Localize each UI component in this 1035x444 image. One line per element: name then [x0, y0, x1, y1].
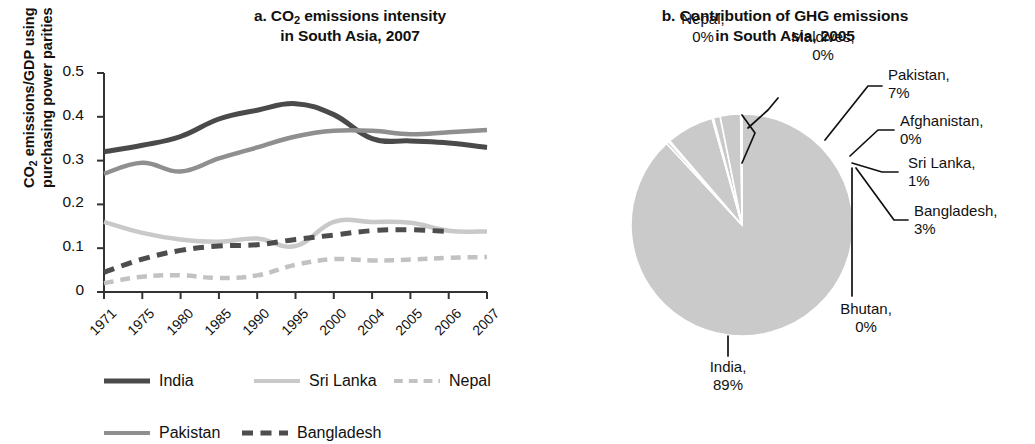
- legend-swatch: [104, 426, 150, 440]
- x-tick-label: 1995: [264, 305, 311, 352]
- x-tick-label: 2007: [456, 305, 503, 352]
- pie-label-sri-lanka: Sri Lanka,1%: [908, 154, 1018, 190]
- x-tick-label: 1990: [226, 305, 273, 352]
- pie-label-percent: 0%: [855, 318, 877, 335]
- legend-swatch: [254, 374, 300, 388]
- pie-label-percent: 89%: [713, 376, 743, 393]
- x-tick-label: 2004: [341, 305, 388, 352]
- pie-label-percent: 0%: [900, 130, 922, 147]
- pie-label-percent: 0%: [812, 46, 834, 63]
- pie-label-name: Bangladesh,: [914, 202, 997, 219]
- pie-label-afghanistan: Afghanistan,0%: [900, 112, 1025, 148]
- pie-label-india: India,89%: [678, 358, 778, 394]
- pie-label-percent: 0%: [692, 28, 714, 45]
- legend-item-sri-lanka[interactable]: Sri Lanka: [254, 372, 377, 390]
- legend-swatch: [242, 426, 288, 440]
- legend-item-bangladesh[interactable]: Bangladesh: [242, 424, 382, 442]
- x-axis-tick-labels: 1971197519801985199019952000200420052006…: [0, 0, 520, 429]
- chart-legend: IndiaSri LankaNepalPakistanBangladesh: [104, 372, 524, 424]
- pie-label-maldives: Maldives,0%: [768, 28, 878, 64]
- legend-row: PakistanBangladesh: [104, 398, 524, 424]
- legend-label: Pakistan: [159, 424, 220, 442]
- pie-label-name: Nepal,: [681, 10, 724, 27]
- legend-label: Nepal: [449, 372, 491, 390]
- pie-label-name: Sri Lanka,: [908, 154, 976, 171]
- pie-label-percent: 1%: [908, 172, 930, 189]
- pie-label-name: Afghanistan,: [900, 112, 983, 129]
- pie-label-name: Pakistan,: [888, 66, 950, 83]
- legend-swatch: [394, 374, 440, 388]
- x-tick-label: 2000: [302, 305, 349, 352]
- x-tick-label: 1975: [111, 305, 158, 352]
- pie-label-name: Maldives,: [791, 28, 854, 45]
- x-tick-label: 1985: [188, 305, 235, 352]
- pie-label-nepal: Nepal,0%: [658, 10, 748, 46]
- pie-label-percent: 3%: [914, 220, 936, 237]
- pie-label-name: Bhutan,: [840, 300, 892, 317]
- legend-item-pakistan[interactable]: Pakistan: [104, 424, 220, 442]
- pie-label-bhutan: Bhutan,0%: [816, 300, 916, 336]
- legend-row: IndiaSri LankaNepal: [104, 372, 524, 398]
- legend-swatch: [104, 374, 150, 388]
- pie-label-bangladesh: Bangladesh,3%: [914, 202, 1035, 238]
- legend-item-nepal[interactable]: Nepal: [394, 372, 491, 390]
- legend-label: India: [159, 372, 194, 390]
- x-tick-label: 1980: [149, 305, 196, 352]
- x-tick-label: 2005: [379, 305, 426, 352]
- x-tick-label: 2006: [417, 305, 464, 352]
- legend-label: Sri Lanka: [309, 372, 377, 390]
- pie-label-name: India,: [710, 358, 747, 375]
- pie-label-percent: 7%: [888, 84, 910, 101]
- panel-b-pie-chart: b. Contribution of GHG emissions in Sout…: [520, 0, 1035, 429]
- pie-label-pakistan: Pakistan,7%: [888, 66, 1008, 102]
- legend-item-india[interactable]: India: [104, 372, 194, 390]
- x-tick-label: 1971: [73, 305, 120, 352]
- legend-label: Bangladesh: [297, 424, 382, 442]
- panel-a-line-chart: a. CO2 emissions intensity in South Asia…: [0, 0, 520, 429]
